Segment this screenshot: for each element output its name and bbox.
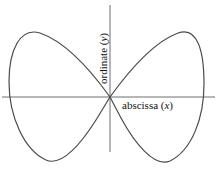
x-axis-label-prefix: abscissa ( [122, 99, 164, 111]
x-axis-label-suffix: ) [169, 99, 173, 111]
y-axis-variable: y [97, 37, 109, 42]
y-axis-label-prefix: ordinate ( [97, 42, 109, 84]
figure-container: abscissa (x) ordinate (y) [0, 0, 217, 170]
plot-canvas [0, 0, 217, 170]
y-axis-label-suffix: ) [97, 33, 109, 37]
y-axis-label-text: ordinate (y) [98, 33, 109, 84]
x-axis-label: abscissa (x) [122, 100, 173, 111]
